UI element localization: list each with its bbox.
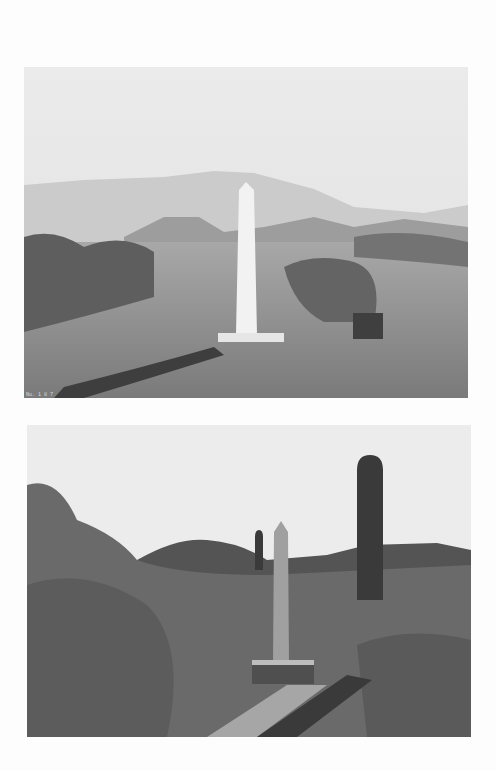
- photo-top-obelisk: No. 1 8 7: [24, 67, 468, 398]
- photo-bottom-obelisk-cacti: [27, 425, 471, 737]
- obelisk-desert-image: No. 1 8 7: [24, 67, 468, 398]
- photo-caption: No. 1 8 7: [26, 392, 53, 398]
- obelisk-saguaro-image: [27, 425, 471, 737]
